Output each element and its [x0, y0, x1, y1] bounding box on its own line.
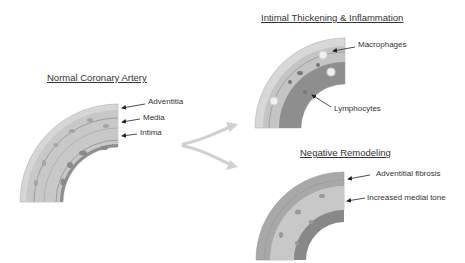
lymphocytes-label: Lymphocytes	[334, 104, 381, 113]
increased-medial-tone-label: Increased medial tone	[367, 193, 446, 202]
remodeling-title: Negative Remodeling	[300, 147, 391, 158]
media-label: Media	[143, 113, 165, 122]
macrophages-label: Macrophages	[358, 40, 406, 49]
normal-artery-title: Normal Coronary Artery	[47, 72, 147, 83]
normal-artery-illustration	[20, 104, 118, 202]
adventitial-fibrosis-label: Adventitial fibrosis	[376, 169, 440, 178]
remodeling-artery-illustration	[256, 172, 344, 260]
inflammation-title: Intimal Thickening & Inflammation	[261, 12, 403, 23]
adventitia-label: Adventitia	[148, 97, 183, 106]
inflammation-artery-illustration	[255, 38, 345, 128]
branch-arrow-icon	[183, 122, 238, 170]
intima-label: Intima	[140, 128, 162, 137]
